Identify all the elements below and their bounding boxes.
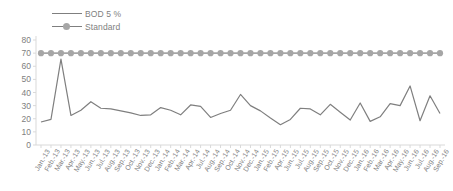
series-marker: [307, 50, 313, 56]
line-chart: BOD 5 % Standard 80706050403020100 Jan.-…: [0, 0, 453, 191]
y-axis: 80706050403020100: [0, 36, 34, 148]
series-marker: [427, 50, 433, 56]
series-marker: [198, 50, 204, 56]
series-marker: [347, 50, 353, 56]
legend-line-key-icon: [52, 7, 82, 20]
series-marker: [58, 50, 64, 56]
series-marker: [128, 50, 134, 56]
series-marker: [277, 50, 283, 56]
series-marker: [387, 50, 393, 56]
series-marker: [48, 50, 54, 56]
series-line: [41, 59, 440, 125]
y-tick-label: 40: [22, 88, 31, 98]
series-marker: [148, 50, 154, 56]
y-tick-label: 30: [22, 101, 31, 111]
series-marker: [397, 50, 403, 56]
plot-area: [36, 40, 445, 145]
series-marker: [287, 50, 293, 56]
legend-label-standard: Standard: [82, 22, 120, 32]
series-marker: [78, 50, 84, 56]
plot-svg: [36, 40, 445, 145]
legend-item-bod: BOD 5 %: [52, 7, 192, 20]
y-tick-label: 80: [22, 35, 31, 45]
series-marker: [108, 50, 114, 56]
series-marker: [377, 50, 383, 56]
y-tick-label: 50: [22, 74, 31, 84]
series-marker: [407, 50, 413, 56]
plot-wrapper: 80706050403020100: [0, 36, 453, 148]
series-marker: [417, 50, 423, 56]
series-marker: [98, 50, 104, 56]
series-marker: [188, 50, 194, 56]
series-marker: [158, 50, 164, 56]
legend-marker-key-icon: [52, 20, 82, 33]
series-marker: [267, 50, 273, 56]
series-marker: [217, 50, 223, 56]
series-marker: [297, 50, 303, 56]
series-marker: [227, 50, 233, 56]
series-marker: [88, 50, 94, 56]
series-marker: [207, 50, 213, 56]
series-marker: [237, 50, 243, 56]
y-tick-label: 20: [22, 114, 31, 124]
series-marker: [68, 50, 74, 56]
series-marker: [38, 50, 44, 56]
series-marker: [257, 50, 263, 56]
series-marker: [178, 50, 184, 56]
series-marker: [247, 50, 253, 56]
series-marker: [327, 50, 333, 56]
legend-item-standard: Standard: [52, 20, 192, 33]
chart-legend: BOD 5 % Standard: [52, 7, 192, 33]
y-tick-label: 0: [26, 140, 31, 150]
y-tick-label: 70: [22, 48, 31, 58]
series-marker: [367, 50, 373, 56]
series-marker: [357, 50, 363, 56]
series-marker: [118, 50, 124, 56]
legend-label-bod: BOD 5 %: [82, 9, 121, 19]
y-tick-label: 60: [22, 61, 31, 71]
x-axis: Jan.-13Feb.-13Mar.-13Apr.-13May.-13Jun.-…: [36, 148, 445, 191]
series-marker: [337, 50, 343, 56]
series-marker: [138, 50, 144, 56]
y-tick-label: 10: [22, 127, 31, 137]
series-marker: [437, 50, 443, 56]
series-marker: [317, 50, 323, 56]
series-marker: [168, 50, 174, 56]
